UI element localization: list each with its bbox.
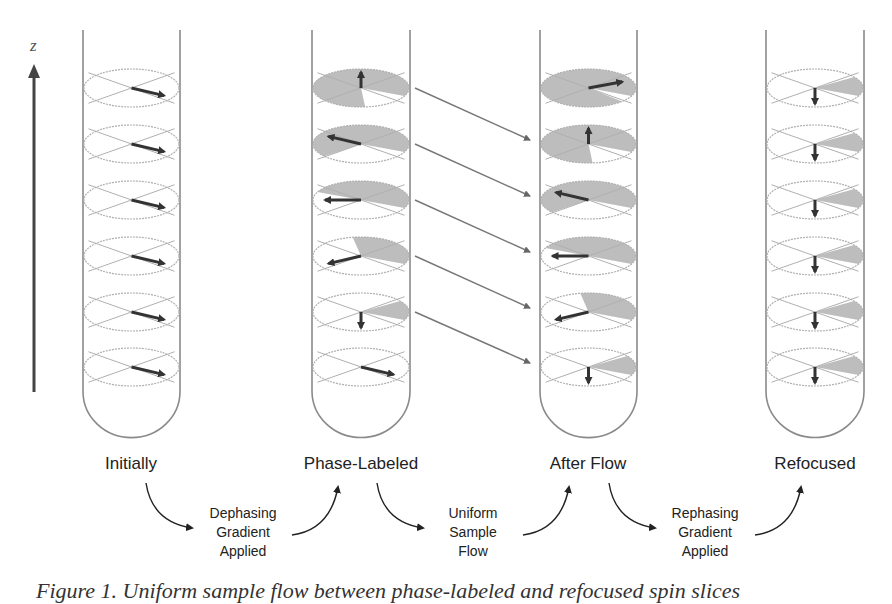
step-label-uniform-flow: Uniform Sample Flow bbox=[448, 504, 497, 561]
z-axis-arrow bbox=[28, 64, 40, 392]
phase-shade bbox=[580, 293, 636, 320]
spin-slice bbox=[84, 237, 179, 275]
z-axis-label: z bbox=[30, 36, 37, 56]
spin-arrow-icon bbox=[132, 312, 165, 320]
curve-arrow-dephase-out bbox=[292, 487, 338, 535]
flow-arrow-icon bbox=[415, 88, 530, 140]
flow-arrow-icon bbox=[415, 200, 530, 252]
stage-label-initially: Initially bbox=[105, 454, 157, 474]
step-line: Uniform bbox=[448, 504, 497, 523]
spin-slice bbox=[767, 348, 863, 386]
tubes-layer bbox=[83, 30, 864, 438]
curve-arrow-rephase-in bbox=[609, 483, 655, 528]
curve-arrow-flow-in bbox=[377, 483, 423, 528]
stage-label-after-flow: After Flow bbox=[550, 454, 627, 474]
spin-slice bbox=[313, 293, 409, 331]
step-line: Sample bbox=[448, 523, 497, 542]
tube-phase-labeled bbox=[312, 30, 410, 438]
stage-label-refocused: Refocused bbox=[774, 454, 855, 474]
step-label-dephasing: Dephasing Gradient Applied bbox=[210, 504, 277, 561]
step-line: Flow bbox=[448, 542, 497, 561]
spin-arrow-icon bbox=[132, 144, 165, 152]
spin-slice bbox=[541, 237, 636, 275]
curve-arrow-flow-out bbox=[523, 487, 569, 535]
step-label-rephasing: Rephasing Gradient Applied bbox=[672, 504, 739, 561]
spin-slice bbox=[767, 125, 863, 163]
spin-slice bbox=[541, 348, 636, 386]
flow-arrow-icon bbox=[415, 256, 530, 308]
spin-slice bbox=[84, 181, 179, 219]
flow-arrow-icon bbox=[415, 144, 530, 196]
spin-slice bbox=[313, 237, 409, 275]
spin-arrow-icon bbox=[361, 367, 394, 375]
spin-slice bbox=[541, 293, 636, 331]
spin-slice bbox=[84, 293, 179, 331]
tube-refocused bbox=[766, 30, 864, 438]
step-line: Applied bbox=[210, 542, 277, 561]
tube-initially bbox=[83, 30, 180, 438]
spin-slice bbox=[313, 181, 409, 219]
step-line: Gradient bbox=[210, 523, 277, 542]
flow-arrow-icon bbox=[415, 312, 530, 363]
spin-arrow-icon bbox=[132, 367, 165, 375]
phase-shade bbox=[541, 181, 636, 212]
curve-arrow-dephase-in bbox=[146, 483, 192, 528]
phase-shade bbox=[546, 237, 637, 264]
spin-slice bbox=[313, 69, 409, 107]
step-line: Dephasing bbox=[210, 504, 277, 523]
spin-slice bbox=[767, 293, 863, 331]
spin-slice bbox=[84, 125, 179, 163]
spin-slice bbox=[313, 125, 409, 163]
spin-slice bbox=[541, 125, 636, 163]
spin-arrow-icon bbox=[132, 88, 165, 96]
phase-shade bbox=[353, 237, 409, 264]
figure-caption: Figure 1. Uniform sample flow between ph… bbox=[36, 578, 740, 604]
stage-label-phase-labeled: Phase-Labeled bbox=[304, 454, 418, 474]
spin-slice bbox=[767, 237, 863, 275]
spin-slice bbox=[84, 69, 179, 107]
spin-slice bbox=[541, 181, 636, 219]
spin-arrow-icon bbox=[132, 200, 165, 208]
spin-slice bbox=[767, 69, 863, 107]
flow-arrows-layer bbox=[415, 88, 530, 363]
step-line: Applied bbox=[672, 542, 739, 561]
spin-arrow-icon bbox=[328, 256, 361, 264]
spin-slice bbox=[84, 348, 179, 386]
curve-arrow-rephase-out bbox=[755, 487, 801, 535]
spin-slice bbox=[313, 348, 409, 386]
step-line: Rephasing bbox=[672, 504, 739, 523]
spin-arrow-icon bbox=[132, 256, 165, 264]
spin-slice bbox=[541, 69, 636, 107]
step-line: Gradient bbox=[672, 523, 739, 542]
tube-after-flow bbox=[540, 30, 637, 438]
spin-slice bbox=[767, 181, 863, 219]
spin-arrow-icon bbox=[556, 312, 589, 320]
phase-shade bbox=[313, 125, 409, 156]
